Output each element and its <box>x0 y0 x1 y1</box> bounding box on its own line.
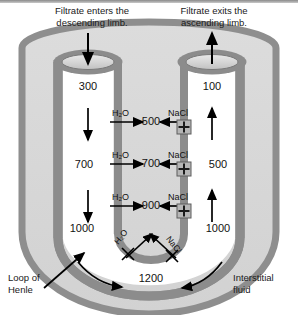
interstitial-fluid-label-line2: fluid <box>233 284 295 296</box>
loop-of-henle-label-line1: Loop of <box>8 272 78 284</box>
ascending-value-100: 100 <box>190 80 234 92</box>
figure-canvas: Filtrate enters the descending limb. Fil… <box>0 0 298 315</box>
salt-label-1: NaCl <box>168 108 188 118</box>
water-label-2: H₂O <box>112 150 129 160</box>
descending-value-1000: 1000 <box>56 222 108 234</box>
ascending-value-500: 500 <box>196 158 240 170</box>
caption-ascending-line2: ascending limb. <box>150 17 278 29</box>
descending-value-700: 700 <box>62 158 106 170</box>
interstitial-fluid-label-line1: Interstitial <box>233 272 295 284</box>
sodium-pump-icon-2 <box>177 162 191 176</box>
interstitial-fluid-label: Interstitial fluid <box>233 272 295 295</box>
caption-ascending: Filtrate exits the ascending limb. <box>150 5 278 28</box>
loop-of-henle-label: Loop of Henle <box>8 272 78 295</box>
caption-ascending-line1: Filtrate exits the <box>150 5 278 17</box>
caption-descending: Filtrate enters the descending limb. <box>28 5 156 28</box>
water-label-1: H₂O <box>112 108 129 118</box>
loop-of-henle-label-line2: Henle <box>8 284 78 296</box>
caption-descending-line1: Filtrate enters the <box>28 5 156 17</box>
caption-descending-line2: descending limb. <box>28 17 156 29</box>
salt-label-3: NaCl <box>168 192 188 202</box>
sodium-pump-icon-3 <box>177 204 191 218</box>
interstitial-value-1200: 1200 <box>126 272 176 284</box>
sodium-pump-icon-1 <box>177 120 191 134</box>
salt-label-2: NaCl <box>168 150 188 160</box>
ascending-value-1000: 1000 <box>192 222 244 234</box>
water-label-3: H₂O <box>112 192 129 202</box>
descending-value-300: 300 <box>66 80 110 92</box>
